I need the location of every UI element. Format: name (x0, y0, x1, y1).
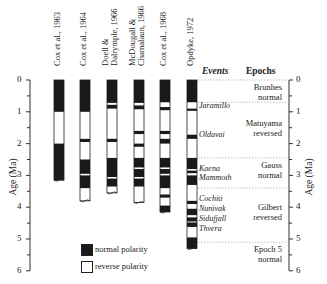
epochs-header: Epochs (246, 66, 276, 76)
normal-polarity-band (160, 158, 170, 168)
normal-polarity-band (187, 222, 197, 226)
normal-polarity-band (187, 209, 197, 215)
normal-polarity-band (134, 144, 144, 147)
normal-polarity-band (160, 107, 170, 110)
event-label-sidufjall: Sidufjall (199, 214, 226, 223)
epoch-label-matuyama: Matuyamareversed (222, 118, 282, 138)
right-tick-label: 5 (296, 233, 301, 243)
normal-polarity-band (54, 144, 64, 181)
normal-polarity-band (134, 179, 144, 187)
normal-polarity-band (187, 171, 197, 174)
normal-polarity-band (187, 217, 197, 221)
normal-polarity-band (80, 175, 90, 188)
normal-polarity-band (134, 169, 144, 177)
legend-normal-swatch (81, 244, 93, 256)
epoch-label-brunhes: Brunhesnormal (222, 82, 282, 102)
normal-polarity-band (107, 179, 117, 187)
event-label-nunivak: Nunivak (199, 204, 226, 213)
right-tick-label: 3 (296, 169, 301, 179)
normal-polarity-band (160, 131, 170, 134)
normal-polarity-band (134, 105, 144, 109)
right-tick-label: 4 (296, 201, 301, 211)
normal-polarity-band (187, 237, 197, 248)
legend-reverse-label: reverse polarity (95, 261, 148, 271)
normal-polarity-band (134, 158, 144, 168)
legend-reverse-swatch (81, 261, 93, 273)
right-tick-label: 0 (296, 74, 301, 84)
column-label-cox-1968: Cox et al., 1968 (159, 12, 168, 66)
normal-polarity-band (187, 158, 197, 169)
normal-polarity-band (107, 139, 117, 142)
normal-polarity-band (187, 109, 197, 111)
normal-polarity-band (187, 175, 197, 185)
right-tick-label: 6 (296, 265, 301, 275)
normal-polarity-band (107, 158, 117, 177)
normal-polarity-band (107, 105, 117, 109)
epoch-label-epoch5: Epoch 5normal (222, 244, 282, 264)
normal-polarity-band (134, 131, 144, 134)
right-tick-label: 1 (296, 106, 301, 116)
normal-polarity-band (160, 169, 170, 174)
events-header: Events (202, 66, 228, 76)
normal-polarity-band (80, 139, 90, 142)
legend-normal-label: normal polarity (95, 244, 148, 254)
event-label-olduvai: Olduvai (199, 130, 225, 139)
normal-polarity-band (187, 135, 197, 139)
event-label-kaena: Kaena (199, 164, 220, 173)
column-label-mcdougall-1966: McDougall &Chamalaun, 1966 (128, 6, 146, 66)
left-tick-label: 4 (17, 201, 22, 211)
normal-polarity-band (107, 80, 117, 103)
event-label-jaramillo: Jaramillo (199, 101, 230, 110)
normal-polarity-band (80, 80, 90, 112)
normal-polarity-band (134, 80, 144, 103)
left-tick-label: 2 (17, 138, 22, 148)
column-label-cox-1964: Cox et al., 1964 (79, 12, 88, 66)
column-label-opdyke-1972: Opdyke, 1972 (186, 18, 195, 66)
left-tick-label: 1 (17, 106, 22, 116)
event-label-thvera: Thvera (199, 224, 222, 233)
normal-polarity-band (54, 80, 64, 112)
left-tick-label: 5 (17, 233, 22, 243)
left-tick-label: 0 (17, 74, 22, 84)
event-label-cochiti: Cochiti (199, 194, 223, 203)
right-axis-title: Age (Ma) (304, 158, 314, 195)
normal-polarity-band (160, 80, 170, 102)
right-tick-label: 2 (296, 138, 301, 148)
event-label-mammoth: Mammoth (199, 173, 231, 182)
normal-polarity-band (187, 80, 197, 102)
left-tick-label: 3 (17, 169, 22, 179)
column-label-doell-1966: Doell &Dalrymple, 1966 (101, 6, 119, 66)
left-tick-label: 6 (17, 265, 22, 275)
column-label-cox-1963: Cox et al., 1963 (53, 12, 62, 66)
normal-polarity-band (160, 175, 170, 188)
polarity-timescale-chart: Cox et al., 1963 Cox et al., 1964 Doell … (0, 0, 327, 284)
normal-polarity-band (160, 139, 170, 144)
normal-polarity-band (160, 194, 170, 197)
epoch-label-gilbert: Gilbertreversed (222, 202, 282, 222)
normal-polarity-band (187, 201, 197, 204)
normal-polarity-band (80, 160, 90, 174)
